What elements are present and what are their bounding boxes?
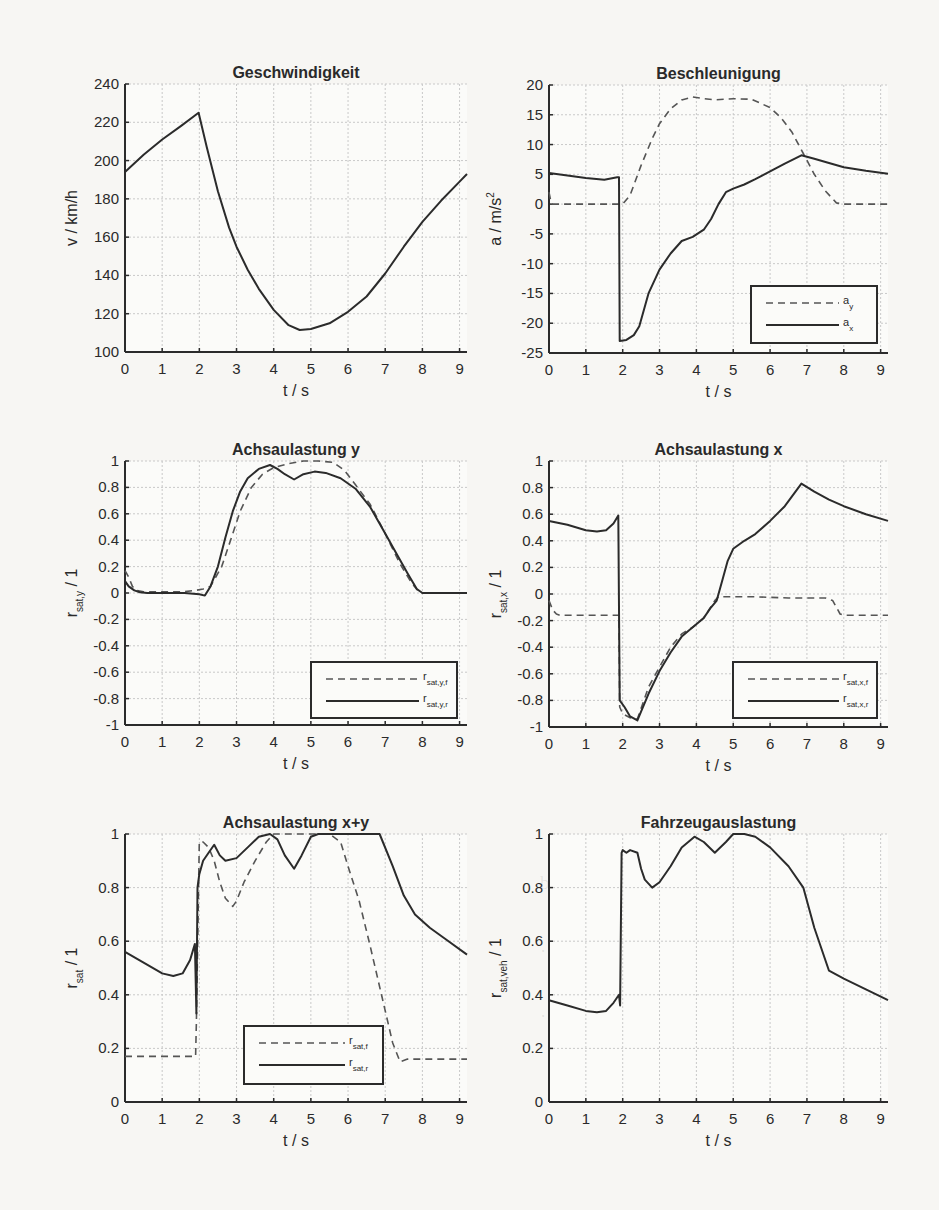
svg-text:4: 4 xyxy=(270,360,278,377)
svg-text:3: 3 xyxy=(232,733,240,750)
y-tick-labels: -1-0.8-0.6-0.4-0.200.20.40.60.81 xyxy=(93,452,129,733)
x-axis-label: t / s xyxy=(283,755,309,772)
svg-text:3: 3 xyxy=(655,735,663,752)
svg-text:0.8: 0.8 xyxy=(98,879,119,896)
svg-text:8: 8 xyxy=(418,360,426,377)
svg-text:5: 5 xyxy=(535,165,543,182)
svg-text:160: 160 xyxy=(94,228,119,245)
svg-text:7: 7 xyxy=(381,733,389,750)
svg-text:3: 3 xyxy=(232,360,240,377)
svg-text:0.8: 0.8 xyxy=(522,879,543,896)
chart-title: Achsaulastung x+y xyxy=(223,814,369,831)
chart-title: Beschleunigung xyxy=(656,65,780,82)
svg-text:0.4: 0.4 xyxy=(98,531,119,548)
svg-text:6: 6 xyxy=(766,361,774,378)
chart-title: Fahrzeugauslastung xyxy=(641,814,797,831)
x-axis-label: t / s xyxy=(706,757,732,774)
svg-text:0.8: 0.8 xyxy=(98,478,119,495)
svg-text:200: 200 xyxy=(94,152,119,169)
svg-text:-15: -15 xyxy=(521,284,543,301)
svg-text:0.6: 0.6 xyxy=(98,505,119,522)
svg-text:4: 4 xyxy=(270,733,278,750)
chart-title: Geschwindigkeit xyxy=(232,64,360,81)
svg-text:0.6: 0.6 xyxy=(522,505,543,522)
y-tick-labels: -1-0.8-0.6-0.4-0.200.20.40.60.81 xyxy=(517,452,553,735)
svg-text:1: 1 xyxy=(582,735,590,752)
svg-text:5: 5 xyxy=(729,735,737,752)
chart-geschwindigkeit: 0123456789100120140160180200220240Geschw… xyxy=(63,64,467,399)
svg-text:-0.4: -0.4 xyxy=(93,637,119,654)
svg-text:6: 6 xyxy=(766,1110,774,1127)
svg-text:3: 3 xyxy=(655,1110,663,1127)
svg-text:7: 7 xyxy=(803,1110,811,1127)
svg-text:9: 9 xyxy=(876,1110,884,1127)
svg-text:3: 3 xyxy=(232,1110,240,1127)
x-axis-label: t / s xyxy=(706,383,732,400)
svg-text:100: 100 xyxy=(94,343,119,360)
svg-text:-0.2: -0.2 xyxy=(517,612,543,629)
svg-text:-1: -1 xyxy=(530,718,543,735)
svg-text:2: 2 xyxy=(195,733,203,750)
y-tick-labels: 100120140160180200220240 xyxy=(94,75,129,360)
svg-text:0.2: 0.2 xyxy=(522,1039,543,1056)
svg-text:1: 1 xyxy=(111,825,119,842)
svg-text:0.8: 0.8 xyxy=(522,479,543,496)
svg-text:6: 6 xyxy=(344,733,352,750)
svg-text:7: 7 xyxy=(803,735,811,752)
y-axis-label: rsat,veh / 1 xyxy=(487,938,509,998)
svg-text:2: 2 xyxy=(195,1110,203,1127)
svg-text:-0.4: -0.4 xyxy=(517,638,543,655)
chart-title: Achsaulastung x xyxy=(654,441,782,458)
svg-text:1: 1 xyxy=(582,1110,590,1127)
svg-text:-5: -5 xyxy=(530,225,543,242)
legend: rsat,frsat,r xyxy=(244,1026,383,1084)
legend: ayax xyxy=(751,286,877,343)
svg-text:9: 9 xyxy=(455,1110,463,1127)
svg-text:5: 5 xyxy=(729,361,737,378)
svg-text:1: 1 xyxy=(111,452,119,469)
y-axis-label: rsat,x / 1 xyxy=(487,570,509,619)
svg-text:8: 8 xyxy=(418,733,426,750)
svg-text:0.2: 0.2 xyxy=(98,558,119,575)
svg-text:1: 1 xyxy=(535,825,543,842)
x-axis-label: t / s xyxy=(706,1132,732,1149)
svg-text:180: 180 xyxy=(94,190,119,207)
svg-text:2: 2 xyxy=(619,735,627,752)
svg-text:15: 15 xyxy=(526,106,543,123)
svg-text:4: 4 xyxy=(692,1110,700,1127)
svg-text:8: 8 xyxy=(840,735,848,752)
svg-text:0: 0 xyxy=(121,733,129,750)
svg-text:120: 120 xyxy=(94,305,119,322)
x-axis-label: t / s xyxy=(283,382,309,399)
svg-text:0: 0 xyxy=(121,1110,129,1127)
chart-achsaulastung-xy: 012345678900.20.40.60.81Achsaulastung x+… xyxy=(63,814,467,1149)
svg-text:5: 5 xyxy=(307,360,315,377)
svg-text:-0.2: -0.2 xyxy=(93,610,119,627)
svg-text:5: 5 xyxy=(729,1110,737,1127)
svg-text:9: 9 xyxy=(876,735,884,752)
svg-text:1: 1 xyxy=(535,452,543,469)
svg-text:-10: -10 xyxy=(521,255,543,272)
svg-text:1: 1 xyxy=(158,1110,166,1127)
svg-text:-1: -1 xyxy=(106,716,119,733)
svg-text:7: 7 xyxy=(803,361,811,378)
legend: rsat,x,frsat,x,r xyxy=(733,662,877,718)
svg-text:8: 8 xyxy=(418,1110,426,1127)
svg-text:-0.8: -0.8 xyxy=(93,690,119,707)
svg-text:9: 9 xyxy=(876,361,884,378)
svg-text:2: 2 xyxy=(619,361,627,378)
svg-text:4: 4 xyxy=(692,361,700,378)
y-axis-label: a / m/s2 xyxy=(485,192,504,246)
svg-text:9: 9 xyxy=(455,733,463,750)
svg-text:-25: -25 xyxy=(521,344,543,361)
svg-text:0.4: 0.4 xyxy=(98,986,119,1003)
svg-text:9: 9 xyxy=(455,360,463,377)
svg-text:0.4: 0.4 xyxy=(522,986,543,1003)
svg-text:8: 8 xyxy=(840,361,848,378)
plot-area xyxy=(549,834,888,1102)
svg-text:7: 7 xyxy=(381,1110,389,1127)
svg-text:20: 20 xyxy=(526,76,543,93)
svg-text:2: 2 xyxy=(195,360,203,377)
svg-text:1: 1 xyxy=(158,733,166,750)
svg-text:8: 8 xyxy=(840,1110,848,1127)
